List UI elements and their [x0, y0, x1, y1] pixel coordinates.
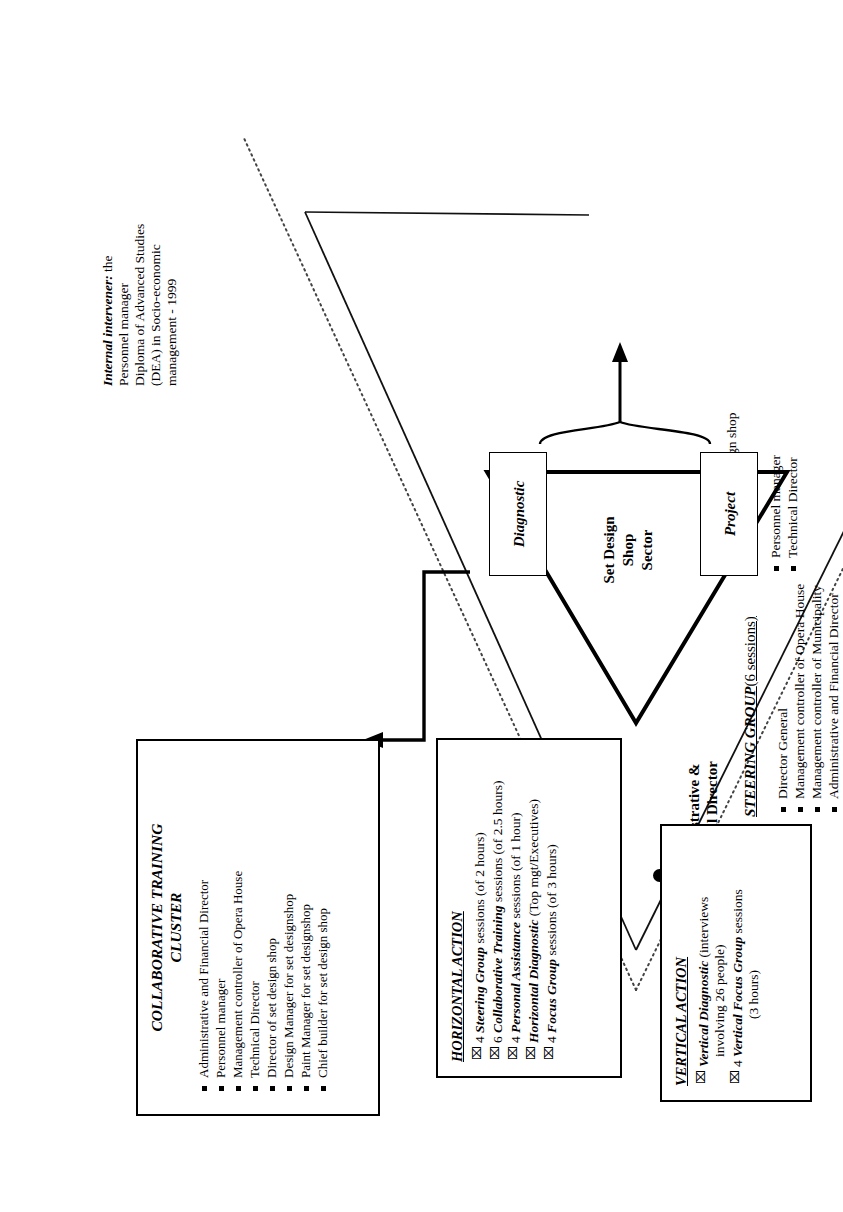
item-count: 4: [544, 1036, 559, 1043]
item-rest: sessions (of 2.5 hours): [490, 781, 505, 906]
sector-line3: Sector: [638, 480, 657, 620]
list-item: Director of set design shop: [264, 741, 280, 1092]
cluster-member: Director of set design shop: [264, 938, 279, 1078]
item-name: Collaborative Training: [490, 905, 505, 1032]
vertical-action-title: VERTICAL ACTION: [673, 957, 690, 1086]
item-rest: sessions (of 1 hour): [508, 812, 523, 922]
item-name: Focus Group: [544, 959, 559, 1033]
item-continuation: involving 26 people): [712, 826, 728, 1067]
steering-group-member: Director General: [775, 708, 790, 799]
sector-line2: Shop: [619, 480, 638, 620]
steering-group-member: Personnel manager: [768, 455, 783, 558]
item-name: Horizontal Diagnostic: [526, 920, 541, 1043]
item-count: 4: [730, 1060, 745, 1067]
steering-group-heading: STEERING GROUP(6 sessions): [742, 616, 760, 817]
list-item: Personnel manager: [768, 413, 784, 572]
list-item: 6 Collaborative Training sessions (of 2.…: [490, 740, 506, 1060]
item-name: Steering Group: [472, 947, 487, 1033]
item-name: Vertical Focus Group: [730, 937, 745, 1057]
steering-group-member: Management controller of Municipality: [809, 585, 824, 799]
steering-group-title: STEERING GROUP: [742, 687, 758, 817]
list-item: Technical Director: [247, 741, 263, 1092]
horizontal-action-list: 4 Steering Group sessions (of 2 hours) 6…: [472, 740, 560, 1060]
item-rest: (interviews: [696, 897, 711, 961]
list-item: Horizontal Diagnostic (Top mgt/Executive…: [526, 740, 542, 1060]
vertical-action-box: VERTICAL ACTION Vertical Diagnostic (int…: [660, 824, 812, 1102]
internal-intervener-line: (DEA) in Socio-economic: [148, 86, 164, 386]
steering-group-sessions: (6 sessions): [742, 616, 758, 686]
list-item: Management controller of Municipality: [809, 584, 825, 813]
item-count: 6: [490, 1036, 505, 1043]
list-item: Management controller of Opera House: [230, 741, 246, 1092]
list-item: Paint Manager for set designshop: [298, 741, 314, 1092]
steering-group-member: Administrative and Financial Director: [826, 593, 841, 799]
internal-intervener-note: Internal intervener: the Personnel manag…: [100, 86, 180, 386]
cluster-member: Technical Director: [247, 981, 262, 1078]
list-item: 4 Personal Assistance sessions (of 1 hou…: [508, 740, 524, 1060]
item-count: 4: [472, 1036, 487, 1043]
cluster-member: Chief builder for set design shop: [315, 908, 330, 1078]
item-rest: sessions (of 3 hours): [544, 844, 559, 959]
internal-intervener-line: the: [100, 255, 115, 272]
list-item: Administrative and Financial Director: [196, 741, 212, 1092]
collaborative-training-cluster-box: COLLABORATIVE TRAINING CLUSTER Administr…: [136, 739, 380, 1116]
list-item: 4 Focus Group sessions (of 3 hours): [544, 740, 560, 1060]
steering-group-members-col1: Director General Management controller o…: [775, 584, 843, 813]
steering-group-member: Management controller of Opera House: [792, 584, 807, 799]
sector-line1: Set Design: [600, 480, 619, 620]
cluster-member: Design Manager for set designshop: [281, 894, 296, 1078]
diagnostic-label: Diagnostic: [490, 453, 548, 575]
list-item: Design Manager for set designshop: [281, 741, 297, 1092]
item-name: Vertical Diagnostic: [696, 961, 711, 1067]
list-item: Vertical Diagnostic (interviews involvin…: [696, 826, 728, 1084]
list-item: Director General: [775, 584, 791, 813]
cluster-member: Management controller of Opera House: [230, 871, 245, 1078]
phase-brace: [540, 342, 710, 444]
horizontal-action-title: HORIZONTAL ACTION: [449, 911, 466, 1062]
item-continuation: (3 hours): [746, 826, 762, 1067]
internal-intervener-line: management - 1999: [164, 86, 180, 386]
internal-intervener-line: Personnel manager: [116, 86, 132, 386]
project-box: Project: [700, 452, 758, 576]
diagnostic-box: Diagnostic: [489, 452, 547, 576]
horizontal-action-box: HORIZONTAL ACTION 4 Steering Group sessi…: [436, 738, 622, 1078]
list-item: Technical Director: [785, 413, 801, 572]
item-name: Personal Assistance: [508, 922, 523, 1033]
cluster-title-line1: COLLABORATIVE TRAINING: [148, 741, 167, 1114]
item-rest: sessions: [730, 889, 745, 937]
cluster-member: Paint Manager for set designshop: [298, 904, 313, 1078]
list-item: Management controller of Opera House: [792, 584, 808, 813]
cluster-member: Personnel manager: [213, 979, 228, 1078]
item-rest: (Top mgt/Executives): [526, 799, 541, 920]
list-item: Administrative and Financial Director: [826, 584, 842, 813]
cluster-member-list: Administrative and Financial Director Pe…: [196, 741, 331, 1092]
project-label: Project: [701, 453, 759, 575]
list-item: Chief builder for set design shop: [315, 741, 331, 1092]
set-design-shop-sector-label: Set Design Shop Sector: [600, 480, 656, 620]
internal-intervener-label: Internal intervener:: [100, 275, 115, 386]
cluster-title: COLLABORATIVE TRAINING CLUSTER: [148, 741, 186, 1114]
cluster-member: Administrative and Financial Director: [196, 880, 211, 1078]
steering-group-member: Technical Director: [785, 457, 800, 558]
internal-intervener-line: Diploma of Advanced Studies: [132, 86, 148, 386]
list-item: 4 Steering Group sessions (of 2 hours): [472, 740, 488, 1060]
list-item: 4 Vertical Focus Group sessions (3 hours…: [730, 826, 762, 1084]
cluster-arrow: [363, 572, 470, 748]
internal-intervener-headline: Internal intervener: the: [100, 86, 116, 386]
item-count: 4: [508, 1036, 523, 1043]
item-rest: sessions (of 2 hours): [472, 832, 487, 947]
cluster-title-line2: CLUSTER: [167, 741, 186, 1114]
vertical-action-list: Vertical Diagnostic (interviews involvin…: [696, 826, 762, 1084]
list-item: Personnel manager: [213, 741, 229, 1092]
